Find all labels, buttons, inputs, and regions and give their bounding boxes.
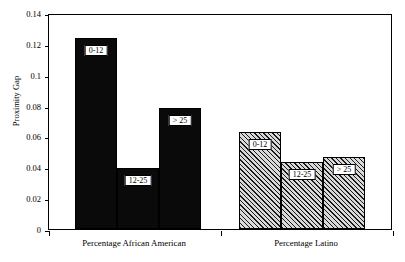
- bar-1-1[interactable]: 0-12: [75, 38, 117, 229]
- bar-1-2[interactable]: 12-25: [117, 168, 159, 229]
- bar-value-label: > 25: [169, 115, 192, 126]
- group-label-african-american: Percentage African American: [48, 238, 220, 248]
- y-tick-mark: [45, 15, 49, 16]
- y-tick-label: 0.04: [0, 163, 41, 173]
- y-tick-label: 0.12: [0, 40, 41, 50]
- bar-chart: Proximity Gap 00.020.040.060.080.10.120.…: [0, 0, 405, 262]
- y-tick-mark: [45, 46, 49, 47]
- y-tick-mark: [45, 169, 49, 170]
- y-tick-label: 0.06: [0, 132, 41, 142]
- y-tick-mark: [45, 77, 49, 78]
- bar-value-label: 12-25: [289, 169, 316, 180]
- y-tick-mark: [45, 108, 49, 109]
- bar-2-1[interactable]: 0-12: [239, 132, 281, 230]
- x-tick-mark: [393, 231, 394, 236]
- bar-value-label: 0-12: [249, 139, 272, 150]
- x-tick-mark: [49, 231, 50, 236]
- bar-value-label: 12-25: [125, 175, 152, 186]
- y-tick-label: 0.1: [0, 71, 41, 81]
- bar-2-2[interactable]: 12-25: [281, 162, 323, 229]
- group-label-latino: Percentage Latino: [220, 238, 392, 248]
- y-tick-label: 0.08: [0, 102, 41, 112]
- bar-value-label: > 25: [333, 164, 356, 175]
- y-tick-label: 0.14: [0, 9, 41, 19]
- y-tick-mark: [45, 200, 49, 201]
- plot-area: 00.020.040.060.080.10.120.14 0-1212-25> …: [48, 14, 392, 230]
- y-tick-label: 0.02: [0, 194, 41, 204]
- bar-1-3[interactable]: > 25: [159, 108, 201, 229]
- bar-2-3[interactable]: > 25: [323, 157, 365, 229]
- y-tick-label: 0: [0, 225, 41, 235]
- bar-value-label: 0-12: [85, 45, 108, 56]
- y-tick-mark: [45, 138, 49, 139]
- x-tick-mark: [221, 231, 222, 236]
